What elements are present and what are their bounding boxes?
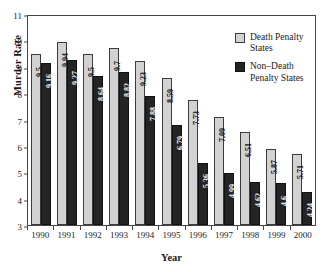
x-tick-2000: 2000 [290, 226, 316, 240]
bar-value-label: 4.99 [229, 184, 237, 198]
x-tick-1991: 1991 [53, 226, 79, 240]
bar-non-death-penalty-2000[interactable]: 4.24 [302, 192, 312, 225]
x-tick-mark [132, 226, 133, 230]
bar-non-death-penalty-1990[interactable]: 9.16 [41, 63, 51, 225]
y-tick: 8 [18, 91, 29, 100]
y-tick: 4 [18, 196, 29, 205]
bar-group: 7.094.99 [211, 16, 237, 225]
bar-death-penalty-1999[interactable]: 5.87 [266, 149, 276, 225]
bar-death-penalty-1995[interactable]: 8.59 [162, 78, 172, 225]
bar-death-penalty-1990[interactable]: 9.5 [31, 54, 41, 225]
y-tick: 7 [18, 117, 29, 126]
bar-death-penalty-2000[interactable]: 5.71 [292, 154, 302, 225]
bar-non-death-penalty-1994[interactable]: 7.88 [145, 96, 155, 225]
bar-group: 9.58.64 [80, 16, 106, 225]
y-tick: 5 [18, 170, 29, 179]
bar-group: 9.949.27 [54, 16, 80, 225]
x-tick-label: 2000 [294, 230, 312, 240]
y-tick: 6 [18, 143, 29, 152]
bar-value-label: 4.24 [307, 203, 315, 217]
x-tick-label: 1996 [189, 230, 207, 240]
x-tick-mark [185, 226, 186, 230]
chart-legend: Death Penalty States Non–Death Penalty S… [235, 32, 332, 91]
bar-group: 9.78.82 [106, 16, 132, 225]
chart-root: Murder Rate 34567891011 9.59.169.949.279… [0, 0, 332, 272]
x-tick-1999: 1999 [263, 226, 289, 240]
x-tick-1994: 1994 [132, 226, 158, 240]
x-tick-1997: 1997 [211, 226, 237, 240]
x-tick-mark [106, 226, 107, 230]
y-tick: 9 [18, 64, 29, 73]
bar-value-label: 5.87 [271, 160, 279, 174]
x-tick-1998: 1998 [237, 226, 263, 240]
x-tick-label: 1995 [162, 230, 180, 240]
x-tick-mark [158, 226, 159, 230]
x-tick-label: 1990 [31, 230, 49, 240]
bar-death-penalty-1998[interactable]: 6.51 [240, 132, 250, 225]
bar-death-penalty-1992[interactable]: 9.5 [83, 54, 93, 225]
x-axis-ticks: 1990199119921993199419951996199719981999… [27, 226, 316, 240]
x-tick-mark [27, 226, 28, 230]
bar-value-label: 8.82 [124, 83, 132, 97]
y-tick: 11 [13, 12, 28, 21]
x-tick-mark [53, 226, 54, 230]
bar-non-death-penalty-1999[interactable]: 4.6 [276, 183, 286, 225]
bar-group: 7.735.36 [185, 16, 211, 225]
bar-death-penalty-1996[interactable]: 7.73 [188, 100, 198, 225]
legend-entry-death-penalty: Death Penalty States [235, 32, 332, 54]
bar-value-label: 9.16 [46, 74, 54, 88]
x-tick-1992: 1992 [80, 226, 106, 240]
x-tick-label: 1991 [57, 230, 75, 240]
x-tick-1990: 1990 [27, 226, 53, 240]
x-tick-label: 1999 [268, 230, 286, 240]
x-tick-label: 1993 [110, 230, 128, 240]
bar-non-death-penalty-1993[interactable]: 8.82 [119, 72, 129, 226]
bar-value-label: 8.59 [167, 89, 175, 103]
bar-value-label: 5.71 [297, 165, 305, 179]
bar-death-penalty-1991[interactable]: 9.94 [57, 42, 67, 225]
bar-non-death-penalty-1991[interactable]: 9.27 [67, 60, 77, 225]
bar-value-label: 8.64 [98, 87, 106, 101]
bar-value-label: 4.62 [255, 193, 263, 207]
bar-group: 8.596.79 [158, 16, 184, 225]
bar-non-death-penalty-1998[interactable]: 4.62 [250, 182, 260, 225]
x-tick-1996: 1996 [185, 226, 211, 240]
bar-value-label: 7.09 [219, 128, 227, 142]
x-axis-title: Year [27, 252, 316, 263]
bar-value-label: 9.5 [88, 67, 96, 77]
x-tick-mark [263, 226, 264, 230]
legend-label-non-death-penalty: Non–Death Penalty States [250, 61, 304, 83]
x-tick-label: 1998 [241, 230, 259, 240]
bar-death-penalty-1997[interactable]: 7.09 [214, 117, 224, 225]
bar-value-label: 9.23 [140, 72, 148, 86]
bar-value-label: 6.51 [245, 143, 253, 157]
plot-area: 34567891011 9.59.169.949.279.58.649.78.8… [27, 15, 316, 226]
bar-non-death-penalty-1995[interactable]: 6.79 [172, 125, 182, 225]
bar-value-label: 5.36 [203, 174, 211, 188]
bar-non-death-penalty-1992[interactable]: 8.64 [93, 76, 103, 225]
bar-value-label: 7.88 [150, 107, 158, 121]
x-tick-1995: 1995 [158, 226, 184, 240]
legend-swatch-icon-non-death-penalty [235, 62, 245, 72]
legend-label-death-penalty: Death Penalty States [250, 32, 304, 54]
legend-swatch-icon-death-penalty [235, 33, 245, 43]
x-tick-mark [211, 226, 212, 230]
bar-value-label: 9.7 [114, 61, 122, 71]
bar-death-penalty-1993[interactable]: 9.7 [109, 48, 119, 225]
bar-non-death-penalty-1997[interactable]: 4.99 [224, 173, 234, 225]
bar-group: 9.237.88 [132, 16, 158, 225]
bar-death-penalty-1994[interactable]: 9.23 [135, 61, 145, 225]
x-tick-mark [290, 226, 291, 230]
legend-entry-non-death-penalty: Non–Death Penalty States [235, 61, 332, 83]
x-tick-1993: 1993 [106, 226, 132, 240]
x-tick-mark [237, 226, 238, 230]
x-tick-mark [80, 226, 81, 230]
bar-value-label: 6.79 [177, 136, 185, 150]
x-tick-label: 1992 [84, 230, 102, 240]
bar-value-label: 7.73 [193, 111, 201, 125]
bar-non-death-penalty-1996[interactable]: 5.36 [198, 163, 208, 225]
x-tick-label: 1994 [136, 230, 154, 240]
y-tick: 10 [13, 38, 28, 47]
x-tick-label: 1997 [215, 230, 233, 240]
bar-value-label: 9.27 [72, 71, 80, 85]
